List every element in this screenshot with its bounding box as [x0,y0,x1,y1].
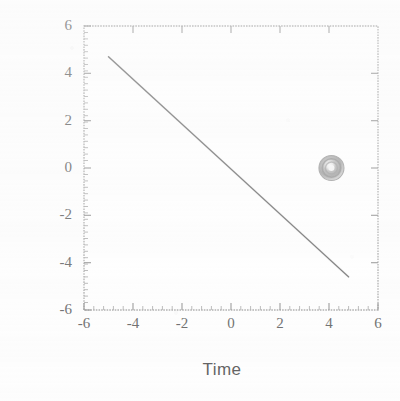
y-tick-label-4: 4 [48,65,78,80]
x-axis-title-text: Time [158,360,241,380]
x-tick-label-2: 2 [260,316,300,331]
y-tick-label-neg4: -4 [48,255,78,270]
y-tick-label-6: 6 [48,18,78,33]
x-tick-label-neg6: -6 [64,316,104,331]
plot-area [0,0,400,401]
y-tick-label-2: 2 [48,113,78,128]
x-tick-label-neg4: -4 [113,316,153,331]
y-tick-label-neg6: -6 [48,302,78,317]
y-tick-label-neg2: -2 [48,207,78,222]
y-tick-label-0: 0 [48,160,78,175]
figure-canvas: -6 -4 -2 0 2 4 6 6 4 2 0 -2 -4 -6 Time F… [0,0,400,401]
x-tick-label-6: 6 [358,316,398,331]
scatter-marker-point [319,156,344,181]
x-tick-label-0: 0 [211,316,251,331]
x-tick-label-4: 4 [309,316,349,331]
x-axis-title: Time [0,360,400,380]
x-tick-label-neg2: -2 [162,316,202,331]
